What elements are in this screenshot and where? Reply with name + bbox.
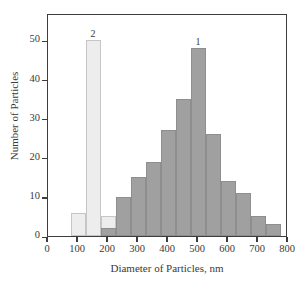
- bars-layer: 12: [48, 15, 286, 236]
- bar-series-1-300: [131, 177, 146, 236]
- x-tick-mark: [76, 237, 77, 242]
- bar-series-1-350: [146, 162, 161, 236]
- x-tick-mark: [226, 237, 227, 242]
- x-tick-label: 0: [44, 244, 49, 255]
- bar-series-1-700: [251, 216, 266, 236]
- bar-series-1-550: [206, 134, 221, 236]
- series-label-2: 2: [91, 29, 96, 39]
- bar-series-1-650: [236, 193, 251, 236]
- x-tick-mark: [286, 237, 287, 242]
- x-tick-label: 300: [129, 244, 145, 255]
- y-tick-label: 10: [30, 191, 41, 202]
- bar-series-1-750: [266, 224, 281, 236]
- bar-series-1-200: [101, 228, 116, 236]
- x-tick-label: 100: [69, 244, 85, 255]
- x-tick-mark: [196, 237, 197, 242]
- y-tick-label: 40: [30, 74, 41, 85]
- x-tick-label: 400: [159, 244, 175, 255]
- y-tick-label: 50: [30, 34, 41, 45]
- bar-series-1-450: [176, 99, 191, 236]
- plot-area: 12: [47, 14, 287, 237]
- bar-series-1-250: [116, 197, 131, 236]
- y-tick-label: 0: [35, 230, 40, 241]
- x-tick-mark: [256, 237, 257, 242]
- bar-series-1-500: [191, 48, 206, 236]
- series-label-1: 1: [196, 37, 201, 47]
- bar-series-1-400: [161, 130, 176, 236]
- bar-series-2-150: [86, 40, 101, 236]
- x-tick-mark: [136, 237, 137, 242]
- x-tick-label: 700: [249, 244, 265, 255]
- x-tick-label: 800: [279, 244, 295, 255]
- y-tick-label: 30: [30, 113, 41, 124]
- bar-series-2-100: [71, 213, 86, 236]
- x-tick-label: 200: [99, 244, 115, 255]
- x-tick-label: 600: [219, 244, 235, 255]
- x-tick-mark: [166, 237, 167, 242]
- bar-series-1-600: [221, 181, 236, 236]
- x-tick-mark: [46, 237, 47, 242]
- x-tick-mark: [106, 237, 107, 242]
- x-tick-label: 500: [189, 244, 205, 255]
- histogram-figure: 01020304050 Number of Particles 12 01002…: [0, 0, 305, 284]
- y-tick-label: 20: [30, 152, 41, 163]
- x-axis-title: Diameter of Particles, nm: [47, 262, 287, 274]
- y-axis-title: Number of Particles: [8, 41, 20, 191]
